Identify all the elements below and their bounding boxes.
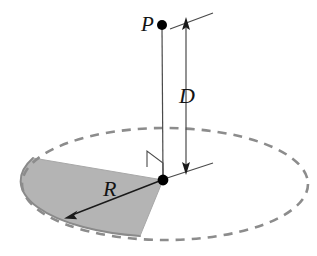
diagram-canvas: [0, 0, 317, 256]
shaded-disk-sector: [21, 158, 163, 236]
disk-center-marker: [158, 175, 169, 186]
top-diagonal-reference-line: [170, 13, 213, 29]
physics-diagram-figure: P D R: [0, 0, 317, 256]
vertical-axis-line: [162, 27, 163, 179]
label-point-p: P: [141, 14, 154, 35]
point-p-marker: [157, 20, 167, 30]
label-radius-r: R: [103, 178, 116, 200]
label-distance-d: D: [179, 85, 195, 107]
